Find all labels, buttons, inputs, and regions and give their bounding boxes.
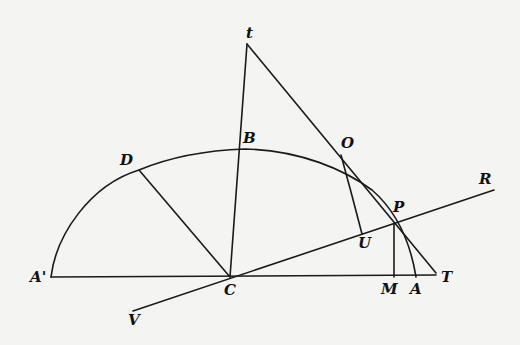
label-A-prime: A' [30,270,46,285]
geometry-figure [0,0,520,345]
label-M: M [381,282,398,297]
label-B: B [243,131,256,146]
label-t: t [246,26,253,41]
line-v-r [133,190,494,311]
label-P: P [393,200,404,215]
baseline-segment [51,275,436,277]
line-c-d [139,170,230,277]
label-R: R [479,172,491,187]
label-T: T [441,270,452,285]
label-C: C [224,283,236,298]
label-U: U [358,236,371,251]
label-D: D [120,153,133,168]
diagram-canvas: t B D O R P U A' C M A T V [0,0,520,345]
label-A: A [410,282,422,297]
label-O: O [341,136,354,151]
ellipse-arc [51,149,416,277]
label-V: V [128,313,140,328]
curve-o-u [341,155,362,234]
line-c-t [230,44,247,277]
